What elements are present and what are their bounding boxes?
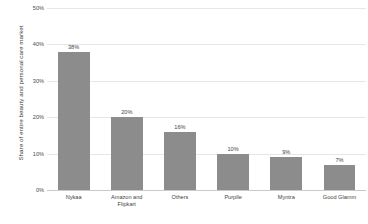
bar-value-label: 38%	[68, 44, 79, 50]
y-axis-tick-label: 50%	[16, 5, 44, 11]
x-axis-category-label: Nykaa	[47, 194, 100, 218]
bar[interactable]	[217, 154, 249, 190]
y-axis-tick-label: 20%	[16, 114, 44, 120]
x-axis-category-label: Amazon and Flipkart	[100, 194, 153, 218]
x-axis-category-label: Myntra	[260, 194, 313, 218]
y-axis-tick-label: 30%	[16, 78, 44, 84]
x-axis-category-labels: NykaaAmazon and FlipkartOthersPurplleMyn…	[47, 194, 366, 218]
bar-chart: Share of entire beauty and personal care…	[0, 0, 368, 224]
y-axis-tick-label: 40%	[16, 41, 44, 47]
bar[interactable]	[324, 165, 356, 190]
x-axis-category-label: Good Glamm	[313, 194, 366, 218]
bar-value-label: 16%	[174, 124, 185, 130]
y-axis-tick-label: 10%	[16, 151, 44, 157]
y-axis-tick-labels: 0%10%20%30%40%50%	[16, 0, 44, 190]
bar[interactable]	[111, 117, 143, 190]
bar-value-label: 20%	[121, 109, 132, 115]
bar-series: 38%20%16%10%9%7%	[47, 8, 366, 190]
bar-value-label: 10%	[228, 146, 239, 152]
x-axis-category-label: Purplle	[207, 194, 260, 218]
y-axis-tick-label: 0%	[16, 187, 44, 193]
bar-slot: 7%	[313, 8, 366, 190]
bar[interactable]	[270, 157, 302, 190]
bar[interactable]	[58, 52, 90, 190]
bar-slot: 38%	[47, 8, 100, 190]
bar-slot: 9%	[260, 8, 313, 190]
bar[interactable]	[164, 132, 196, 190]
bar-slot: 16%	[153, 8, 206, 190]
x-axis-category-label: Others	[153, 194, 206, 218]
bar-slot: 20%	[100, 8, 153, 190]
bar-value-label: 7%	[335, 157, 343, 163]
plot-area: 38%20%16%10%9%7%	[47, 8, 366, 191]
bar-value-label: 9%	[282, 149, 290, 155]
bar-slot: 10%	[207, 8, 260, 190]
